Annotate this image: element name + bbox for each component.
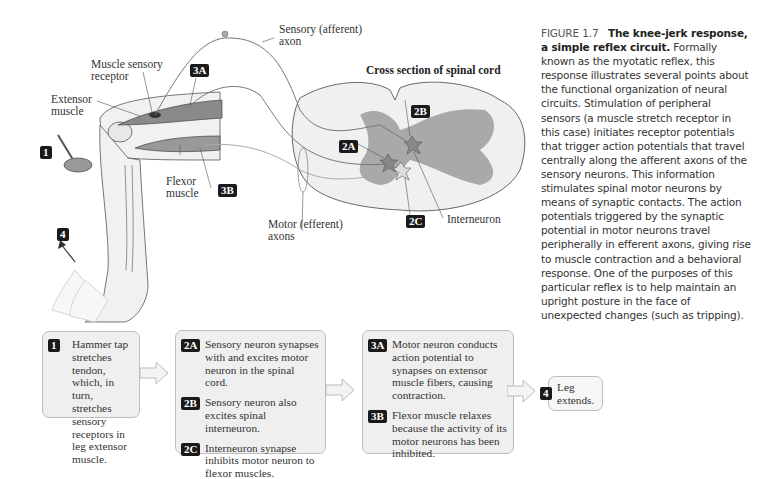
muscle-receptor-label-line2: receptor: [91, 70, 163, 82]
step-3a-badge: 3A: [190, 64, 209, 77]
muscle-receptor-label-line1: Muscle sensory: [91, 58, 163, 70]
step-1-badge: 1: [40, 146, 52, 159]
flow-step-3b: 3B Flexor muscle relaxes because the act…: [368, 409, 507, 460]
sensory-axon-label-line2: axon: [279, 35, 362, 47]
flow-step-text: Motor neuron conducts action potential t…: [392, 338, 497, 401]
flow-step-3a: 3A Motor neuron conducts action potentia…: [368, 338, 507, 402]
reflex-hammer-icon: [58, 135, 92, 172]
flow-step-badge: 2A: [181, 339, 200, 352]
step-4-badge: 4: [57, 228, 69, 241]
flow-step-1: 1 Hammer tap stretches tendon, which, in…: [48, 338, 133, 466]
motor-axons-label: Motor (efferent) axons: [268, 218, 343, 242]
flow-step-badge: 2B: [181, 397, 200, 410]
interneuron-label: Interneuron: [447, 213, 501, 225]
flow-box-3: 3A Motor neuron conducts action potentia…: [362, 330, 514, 454]
extensor-label-line2: muscle: [51, 105, 92, 117]
flow-box-2: 2A Sensory neuron synapses with and exci…: [175, 330, 326, 454]
spinal-cord-label: Cross section of spinal cord: [366, 64, 501, 76]
figure-number: FIGURE 1.7: [541, 27, 598, 39]
flow-box-4: 4 Leg extends.: [548, 376, 603, 411]
flow-step-badge: 3A: [368, 339, 387, 352]
flow-step-text: Sensory neuron synapses with and excites…: [205, 338, 319, 388]
flow-step-text: Sensory neuron also excites spinal inter…: [205, 396, 297, 434]
knee-jerk-illustration: [0, 0, 530, 330]
reflex-diagram: Sensory (afferent) axon Muscle sensory r…: [0, 0, 530, 330]
figure-caption-text: Formally known as the myotatic reflex, t…: [541, 41, 751, 321]
flow-arrow-3-icon: [507, 379, 537, 403]
flow-step-text: Interneuron synapse inhibits motor neuro…: [205, 442, 315, 479]
flow-step-text: Hammer tap stretches tendon, which, in t…: [72, 338, 128, 465]
leg-illustration: [52, 92, 220, 322]
flow-box-1: 1 Hammer tap stretches tendon, which, in…: [42, 331, 140, 418]
flow-step-badge: 2C: [181, 443, 200, 456]
step-2b-badge: 2B: [411, 105, 430, 118]
leg-extension-arrow: [62, 245, 75, 262]
extensor-label-line1: Extensor: [51, 93, 92, 105]
flow-step-text: Leg extends.: [557, 381, 597, 407]
flow-step-2b: 2B Sensory neuron also excites spinal in…: [181, 396, 319, 434]
extensor-muscle-label: Extensor muscle: [51, 93, 92, 117]
flow-step-2c: 2C Interneuron synapse inhibits motor ne…: [181, 442, 319, 479]
flow-step-text: Flexor muscle relaxes because the activi…: [392, 409, 507, 459]
sensory-axon-label-line1: Sensory (afferent): [279, 23, 362, 35]
flow-step-badge: 4: [540, 387, 552, 400]
flow-step-badge: 1: [48, 339, 60, 352]
muscle-receptor-label: Muscle sensory receptor: [91, 58, 163, 82]
flexor-label-line2: muscle: [166, 187, 199, 199]
flow-arrow-1-icon: [140, 361, 170, 385]
flow-step-2a: 2A Sensory neuron synapses with and exci…: [181, 338, 319, 389]
step-2a-badge: 2A: [339, 140, 358, 153]
step-2c-badge: 2C: [406, 215, 425, 228]
flexor-label-line1: Flexor: [166, 175, 199, 187]
figure-caption: FIGURE 1.7 The knee-jerk response, a sim…: [541, 26, 751, 322]
flow-arrow-2-icon: [326, 378, 356, 402]
sensory-axon-label: Sensory (afferent) axon: [279, 23, 362, 47]
step-3b-badge: 3B: [218, 184, 237, 197]
motor-axons-label-line2: axons: [268, 230, 343, 242]
flow-step-4: 4 Leg extends.: [554, 381, 597, 407]
motor-axons-label-line1: Motor (efferent): [268, 218, 343, 230]
flexor-muscle-label: Flexor muscle: [166, 175, 199, 199]
flow-step-badge: 3B: [368, 410, 387, 423]
